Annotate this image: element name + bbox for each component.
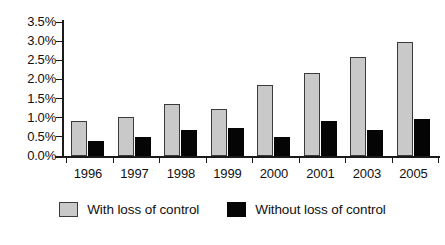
bar-group	[304, 22, 338, 156]
bar-group	[397, 22, 431, 156]
bar-without-loss-of-control-1998	[181, 130, 197, 156]
bar-without-loss-of-control-2001	[321, 121, 337, 156]
bar-group	[164, 22, 198, 156]
y-axis-label: 0.5%	[4, 130, 56, 143]
bar-without-loss-of-control-2000	[274, 137, 290, 156]
x-axis-tick	[438, 158, 439, 163]
x-axis-tick	[66, 158, 67, 163]
y-axis-label: 0.0%	[4, 149, 56, 162]
x-axis-tick	[159, 158, 160, 163]
x-axis-tick	[206, 158, 207, 163]
bar-group	[350, 22, 384, 156]
legend-label: Without loss of control	[255, 202, 386, 217]
gray-swatch-icon	[59, 202, 78, 217]
bar-with-loss-of-control-2005	[397, 42, 413, 156]
bar-without-loss-of-control-1999	[228, 128, 244, 156]
x-axis-tick	[345, 158, 346, 163]
bar-without-loss-of-control-2005	[414, 119, 430, 156]
legend-item-without-loss-of-control: Without loss of control	[227, 202, 386, 217]
bar-with-loss-of-control-1997	[118, 117, 134, 156]
bar-group	[71, 22, 105, 156]
x-axis-tick	[299, 158, 300, 163]
legend-item-with-loss-of-control: With loss of control	[59, 202, 199, 217]
bar-with-loss-of-control-1998	[164, 104, 180, 156]
y-axis-label: 1.5%	[4, 92, 56, 105]
bar-with-loss-of-control-2001	[304, 73, 320, 156]
x-axis-tick	[392, 158, 393, 163]
x-axis-tick	[113, 158, 114, 163]
y-axis-label: 3.5%	[4, 15, 56, 28]
y-axis-label: 2.5%	[4, 53, 56, 66]
plot-area	[63, 22, 438, 156]
bar-without-loss-of-control-2003	[367, 130, 383, 156]
bar-with-loss-of-control-1996	[71, 121, 87, 156]
chart-legend: With loss of control Without loss of con…	[0, 202, 445, 217]
bar-without-loss-of-control-1997	[135, 137, 151, 156]
bar-without-loss-of-control-1996	[88, 141, 104, 156]
bar-chart: 0.0%0.5%1.0%1.5%2.0%2.5%3.0%3.5% 1996199…	[0, 0, 445, 245]
y-axis-label: 3.0%	[4, 34, 56, 47]
black-swatch-icon	[227, 202, 246, 217]
y-axis-label: 2.0%	[4, 72, 56, 85]
bar-with-loss-of-control-1999	[211, 109, 227, 156]
y-axis-label: 1.0%	[4, 111, 56, 124]
x-axis-label-2005: 2005	[384, 166, 444, 181]
bar-with-loss-of-control-2003	[350, 57, 366, 156]
bar-with-loss-of-control-2000	[257, 85, 273, 156]
bar-group	[257, 22, 291, 156]
bar-group	[118, 22, 152, 156]
bar-group	[211, 22, 245, 156]
legend-label: With loss of control	[87, 202, 199, 217]
x-axis-tick	[252, 158, 253, 163]
